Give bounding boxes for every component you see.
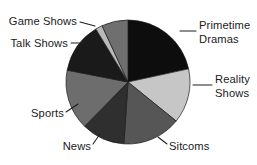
label-sitcoms: Sitcoms: [169, 140, 210, 152]
label-reality-shows-line1: Reality: [215, 73, 250, 85]
leader-line-sitcoms: [158, 137, 167, 144]
leader-line-game-shows: [80, 22, 95, 26]
label-news: News: [63, 140, 92, 152]
label-talk-shows: Talk Shows: [10, 37, 68, 49]
pie-chart-svg: Primetime Dramas Reality Shows Sitcoms N…: [0, 0, 257, 165]
label-reality-shows-line2: Shows: [215, 87, 249, 99]
label-primetime-dramas-line1: Primetime: [199, 19, 250, 31]
pie-chart-figure: Primetime Dramas Reality Shows Sitcoms N…: [0, 0, 257, 165]
label-sports: Sports: [31, 107, 64, 119]
label-primetime-dramas-line2: Dramas: [199, 33, 239, 45]
label-game-shows: Game Shows: [9, 15, 77, 27]
pie-slice-group: [66, 20, 190, 144]
